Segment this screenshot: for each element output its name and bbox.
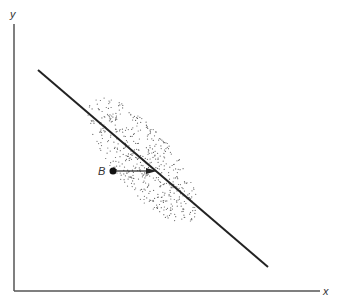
scatter-dot [172, 165, 173, 166]
scatter-dot [113, 142, 114, 143]
scatter-dot [100, 128, 101, 129]
scatter-dot [167, 147, 168, 148]
scatter-dot [195, 194, 196, 195]
scatter-dot [101, 132, 102, 133]
scatter-dot [105, 158, 106, 159]
scatter-dot [149, 201, 150, 202]
scatter-dot [169, 146, 170, 147]
scatter-dot [130, 176, 131, 177]
scatter-dot [118, 143, 119, 144]
scatter-dot [131, 183, 132, 184]
scatter-dot [113, 161, 114, 162]
scatter-dot [134, 116, 135, 117]
scatter-dot [159, 168, 160, 169]
scatter-dot [127, 141, 128, 142]
scatter-dot [116, 166, 117, 167]
scatter-dot [147, 154, 148, 155]
scatter-dot [174, 214, 175, 215]
scatter-dot [158, 162, 159, 163]
scatter-dot [88, 115, 89, 116]
scatter-dot [132, 155, 133, 156]
scatter-dot [170, 198, 171, 199]
scatter-dot [160, 185, 161, 186]
scatter-dot [150, 200, 151, 201]
scatter-dot [189, 193, 190, 194]
scatter-dot [124, 167, 125, 168]
scatter-dot [127, 156, 128, 157]
scatter-dot [158, 177, 159, 178]
scatter-dot [118, 162, 119, 163]
scatter-dot [158, 179, 159, 180]
scatter-dot [134, 183, 135, 184]
scatter-dot [190, 220, 191, 221]
scatter-dot [117, 149, 118, 150]
scatter-dot [190, 182, 191, 183]
scatter-dot [163, 141, 164, 142]
scatter-dot [166, 163, 167, 164]
scatter-dot [124, 179, 125, 180]
scatter-dot [144, 167, 145, 168]
scatter-dot [172, 206, 173, 207]
scatter-dot [141, 118, 142, 119]
scatter-dot [128, 129, 129, 130]
scatter-dot [175, 168, 176, 169]
scatter-dot [195, 210, 196, 211]
scatter-dot [153, 129, 154, 130]
scatter-dot [179, 188, 180, 189]
scatter-dot [110, 162, 111, 163]
scatter-dot [177, 206, 178, 207]
scatter-dot [101, 145, 102, 146]
scatter-dot [177, 172, 178, 173]
regression-line [38, 70, 268, 267]
scatter-dot [140, 199, 141, 200]
scatter-dot [140, 155, 141, 156]
scatter-dot [121, 103, 122, 104]
scatter-dot [162, 196, 163, 197]
scatter-dot [136, 157, 137, 158]
scatter-dot [115, 125, 116, 126]
scatter-dot [115, 161, 116, 162]
scatter-dot [132, 136, 133, 137]
scatter-dot [102, 128, 103, 129]
scatter-dot [173, 169, 174, 170]
scatter-dot [121, 175, 122, 176]
scatter-dot [133, 165, 134, 166]
scatter-dot [167, 143, 168, 144]
scatter-dot [161, 148, 162, 149]
scatter-dot [171, 154, 172, 155]
scatter-dot [90, 123, 91, 124]
scatter-dot [131, 177, 132, 178]
scatter-dot [174, 193, 175, 194]
scatter-dot [163, 202, 164, 203]
scatter-dot [117, 148, 118, 149]
scatter-dot [115, 113, 116, 114]
scatter-dot [149, 133, 150, 134]
scatter-dot [137, 195, 138, 196]
scatter-dot [145, 182, 146, 183]
scatter-dot [157, 168, 158, 169]
scatter-dot [164, 169, 165, 170]
scatter-dot [96, 99, 97, 100]
scatter-dot [126, 127, 127, 128]
scatter-dot [119, 156, 120, 157]
scatter-dot [183, 215, 184, 216]
scatter-dot [189, 214, 190, 215]
scatter-dot [193, 189, 194, 190]
scatter-dot [187, 194, 188, 195]
scatter-dot [190, 212, 191, 213]
scatter-dot [193, 187, 194, 188]
scatter-dot [175, 216, 176, 217]
scatter-dot [153, 177, 154, 178]
scatter-dot [170, 196, 171, 197]
scatter-dot [194, 207, 195, 208]
scatter-dot [166, 200, 167, 201]
scatter-dot [183, 168, 184, 169]
scatter-dot [160, 201, 161, 202]
scatter-dot [144, 172, 145, 173]
scatter-dot [89, 105, 90, 106]
scatter-dot [138, 179, 139, 180]
scatter-dot [112, 117, 113, 118]
scatter-dot [136, 149, 137, 150]
scatter-dot [166, 209, 167, 210]
scatter-dot [169, 167, 170, 168]
